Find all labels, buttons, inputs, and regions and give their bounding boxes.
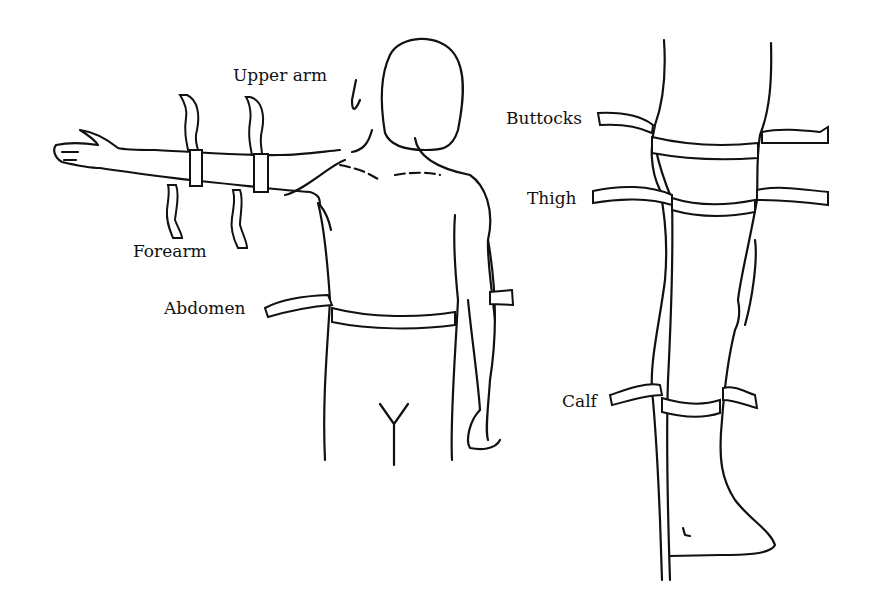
upper-arm-tape bbox=[231, 97, 268, 248]
label-calf: Calf bbox=[562, 393, 597, 410]
buttocks-tape bbox=[598, 113, 828, 159]
forearm-tape bbox=[167, 95, 202, 238]
leg-figure bbox=[652, 40, 775, 580]
calf-tape bbox=[610, 384, 757, 416]
label-forearm: Forearm bbox=[133, 243, 207, 260]
thigh-tape bbox=[593, 187, 828, 216]
label-abdomen: Abdomen bbox=[164, 300, 245, 317]
measurement-diagram: Upper arm Forearm Abdomen Buttocks Thigh… bbox=[0, 0, 876, 610]
line-art-figures bbox=[0, 0, 876, 610]
label-buttocks: Buttocks bbox=[506, 110, 582, 127]
front-figure bbox=[54, 39, 500, 465]
label-upper-arm: Upper arm bbox=[233, 67, 327, 84]
label-thigh: Thigh bbox=[527, 190, 577, 207]
abdomen-tape bbox=[265, 290, 513, 328]
